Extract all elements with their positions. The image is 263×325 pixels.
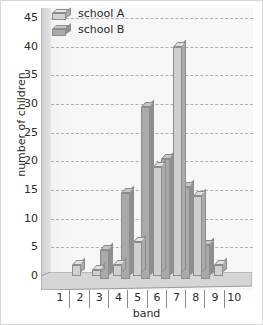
legend-item-school-a: school A xyxy=(52,6,138,21)
bar-school-a-band-5 xyxy=(133,242,142,276)
bar-front-face xyxy=(72,265,81,276)
x-axis-title: band xyxy=(41,307,252,320)
legend-label: school B xyxy=(78,23,124,36)
bar-front-face xyxy=(92,270,101,276)
bar-side-face xyxy=(182,40,186,272)
bar-front-face xyxy=(133,242,142,276)
x-tick-band-4: 4 xyxy=(108,290,128,308)
bar-school-a-band-7 xyxy=(173,47,182,276)
bar-group-band-1 xyxy=(51,8,71,290)
y-tick-30: 30 xyxy=(16,99,38,109)
y-tick-0: 0 xyxy=(16,271,38,281)
bar-group-band-10 xyxy=(233,8,253,290)
x-tick-band-6: 6 xyxy=(147,290,167,308)
legend-swatch-icon xyxy=(52,24,72,36)
y-tick-40: 40 xyxy=(16,42,38,52)
x-tick-band-10: 10 xyxy=(224,290,244,308)
bar-group-band-5 xyxy=(132,8,152,290)
y-tick-45: 45 xyxy=(16,13,38,23)
bar-side-face xyxy=(162,160,166,272)
bar-school-a-band-4 xyxy=(113,265,122,276)
x-tick-band-1: 1 xyxy=(50,290,70,308)
bar-school-a-band-8 xyxy=(193,196,202,276)
bar-front-face xyxy=(173,47,182,276)
bar-group-band-3 xyxy=(91,8,111,290)
x-tick-band-2: 2 xyxy=(69,290,89,308)
bar-group-band-2 xyxy=(71,8,91,290)
legend-swatch-icon xyxy=(52,8,72,20)
bar-group-band-9 xyxy=(213,8,233,290)
x-tick-band-5: 5 xyxy=(127,290,147,308)
bar-school-a-band-3 xyxy=(92,270,101,276)
bar-school-a-band-9 xyxy=(214,265,223,276)
x-tick-band-7: 7 xyxy=(166,290,186,308)
bar-school-a-band-2 xyxy=(72,265,81,276)
chart-legend: school Aschool B xyxy=(52,6,138,38)
bar-group-band-4 xyxy=(112,8,132,290)
bar-front-face xyxy=(153,167,162,276)
y-tick-35: 35 xyxy=(16,70,38,80)
y-axis-tick-labels: 454035302520151050 xyxy=(14,0,38,325)
legend-label: school A xyxy=(78,7,124,20)
y-tick-25: 25 xyxy=(16,128,38,138)
bar-front-face xyxy=(113,265,122,276)
legend-swatch-face xyxy=(52,29,66,36)
x-tick-band-9: 9 xyxy=(204,290,224,308)
y-tick-20: 20 xyxy=(16,156,38,166)
x-axis-tick-labels: 12345678910 xyxy=(41,290,252,308)
legend-swatch-face xyxy=(52,13,66,20)
y-tick-5: 5 xyxy=(16,242,38,252)
x-tick-band-8: 8 xyxy=(185,290,205,308)
bar-front-face xyxy=(214,265,223,276)
plot-area xyxy=(41,8,253,290)
bar-group-band-7 xyxy=(172,8,192,290)
bar-side-face xyxy=(202,189,206,272)
bar-group-band-8 xyxy=(192,8,212,290)
bar-chart: number of children 454035302520151050 12… xyxy=(0,0,263,325)
y-tick-15: 15 xyxy=(16,185,38,195)
bar-front-face xyxy=(193,196,202,276)
y-tick-10: 10 xyxy=(16,214,38,224)
plot-left-wall xyxy=(42,8,51,290)
legend-item-school-b: school B xyxy=(52,22,138,37)
x-tick-band-3: 3 xyxy=(89,290,109,308)
bar-group-band-6 xyxy=(152,8,172,290)
bar-school-a-band-6 xyxy=(153,167,162,276)
